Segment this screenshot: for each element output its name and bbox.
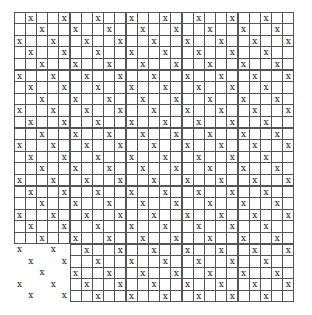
grid-cell[interactable] [36,279,47,291]
grid-cell[interactable] [14,267,25,279]
grid-cell[interactable]: x [59,256,70,268]
grid-cell[interactable]: x [14,279,25,291]
grid-cell[interactable] [48,256,59,268]
grid-cell[interactable] [48,267,59,279]
grid-cell[interactable] [25,244,36,256]
grid-cell[interactable] [59,279,70,291]
grid-cell[interactable]: x [59,290,70,302]
grid-cell[interactable]: x [48,279,59,291]
grid-cell[interactable]: x [36,267,47,279]
grid-cell[interactable] [36,244,47,256]
grid-cell[interactable] [36,256,47,268]
grid-cell[interactable] [59,244,70,256]
grid-cell[interactable] [25,267,36,279]
grid-cell[interactable]: x [48,244,59,256]
grid-cell[interactable] [14,256,25,268]
grid-cell[interactable] [59,267,70,279]
grid-cell[interactable] [36,290,47,302]
grid-cell[interactable]: x [25,256,36,268]
grid-cell[interactable]: x [25,290,36,302]
grid-cell[interactable]: x [14,244,25,256]
grid-cell[interactable] [25,279,36,291]
grid-cell[interactable] [48,290,59,302]
grid-cell[interactable] [282,290,294,303]
grid-cell[interactable] [14,290,25,302]
